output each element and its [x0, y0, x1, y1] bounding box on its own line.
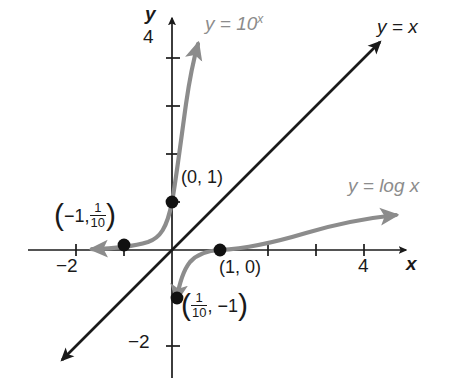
point-label-0-1: (0, 1): [181, 168, 223, 186]
left-paren: (: [54, 203, 64, 228]
fraction-one-tenth: 110: [90, 201, 106, 229]
y-tick-label-neg2: −2: [128, 332, 150, 351]
point-neg1-tenth: [118, 239, 131, 252]
x-tick-label-4: 4: [358, 256, 369, 275]
identity-equation-label: y = x: [377, 17, 418, 36]
math-graph-figure: y x 4 −2 −2 4 y = 10x y = x y = log x (0…: [0, 0, 452, 380]
left-paren: (: [181, 293, 191, 318]
point-label-1-0: (1, 0): [219, 258, 261, 276]
exponential-equation-label: y = 10x: [205, 13, 263, 33]
right-paren: ): [238, 293, 248, 318]
y-tick-label-4: 4: [143, 27, 154, 46]
x-tick-label-neg2: −2: [56, 256, 78, 275]
fraction-numerator: 1: [191, 291, 207, 305]
point-label-neg1-tenth: (−1,110): [54, 202, 116, 230]
exponential-equation-base: y = 10: [205, 13, 257, 34]
fraction-denominator: 10: [191, 305, 207, 320]
fraction-numerator: 1: [90, 201, 106, 215]
x-axis-label: x: [406, 254, 417, 273]
fraction-denominator: 10: [90, 215, 106, 230]
point-label-tenth-neg1: (110, −1): [181, 292, 248, 320]
y-axis-label: y: [145, 4, 156, 23]
coord-y-part: , −1: [207, 297, 238, 315]
fraction-one-tenth: 110: [191, 291, 207, 319]
point-1-0: [214, 244, 227, 257]
exponential-equation-exponent: x: [257, 12, 263, 26]
coord-x-part: −1,: [64, 207, 90, 225]
right-paren: ): [106, 203, 116, 228]
logarithm-equation-label: y = log x: [348, 176, 419, 195]
point-0-1: [166, 196, 179, 209]
